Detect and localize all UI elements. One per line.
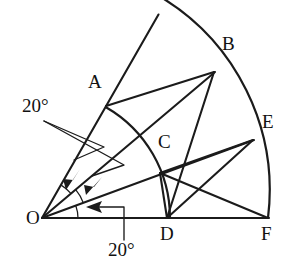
angle-arc-eof [76,206,78,218]
segment-ce [160,140,253,173]
geometry-figure: O A B C D E F 20° 20° [0,0,303,275]
segment-ob [42,72,215,218]
segment-oa-apex [42,15,159,219]
angle-arc-boe [76,190,84,203]
outer-arc [158,0,269,218]
geometry-canvas [0,0,303,275]
inner-arc [106,107,170,218]
angle-label-lower: 20° [108,240,135,259]
point-label-f: F [261,224,272,243]
point-label-b: B [222,34,235,53]
point-label-e: E [262,112,274,131]
point-label-a: A [88,72,102,91]
point-label-c: C [158,132,171,151]
leader-upper-branch-2 [44,121,124,176]
point-label-d: D [160,224,174,243]
angle-label-upper: 20° [22,96,49,115]
segment-cf [160,173,268,218]
point-label-o: O [26,208,40,227]
